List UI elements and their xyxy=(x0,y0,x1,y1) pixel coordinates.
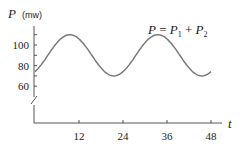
axes: 608010012243648 xyxy=(13,26,223,142)
y-tick-label: 80 xyxy=(18,60,30,72)
x-axis-label: t xyxy=(228,116,232,131)
y-tick-label: 100 xyxy=(13,39,30,51)
power-curve xyxy=(35,35,211,76)
power-chart: P (mw) 608010012243648 P = P1 + P2 t xyxy=(0,0,243,149)
y-tick-label: 60 xyxy=(18,80,30,92)
axis-break-icon xyxy=(31,96,37,104)
x-tick-label: 12 xyxy=(74,130,85,142)
x-tick-label: 24 xyxy=(118,130,130,142)
chart-svg: P (mw) 608010012243648 P = P1 + P2 t xyxy=(0,0,243,149)
x-tick-label: 48 xyxy=(206,130,218,142)
y-axis-label: P (mw) xyxy=(7,4,42,21)
x-tick-label: 36 xyxy=(162,130,174,142)
equation-annotation: P = P1 + P2 xyxy=(147,22,208,39)
